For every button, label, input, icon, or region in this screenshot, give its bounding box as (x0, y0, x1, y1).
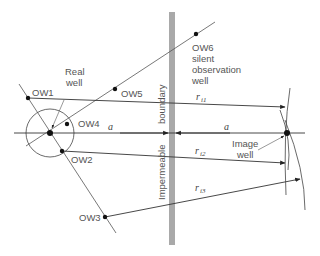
distance-a-right-label: a (224, 121, 229, 132)
image-well-label-line1: Image (232, 138, 258, 149)
ri1-subscript: i1 (201, 96, 206, 104)
image-well-point (284, 130, 290, 136)
image-well-label-line2: well (236, 149, 253, 160)
impermeable-boundary (169, 12, 175, 245)
ow6-label-line4: well (191, 75, 208, 86)
real-well-pointer (52, 100, 64, 128)
ow5-point (113, 87, 117, 91)
ri2-label: r (195, 145, 199, 156)
ow6-label-line1: OW6 (192, 42, 214, 53)
ow6-label-line3: observation (192, 64, 241, 75)
image-well-arc-inner (285, 88, 290, 195)
ow1-point (26, 96, 30, 100)
boundary-label-top: boundary (156, 84, 167, 124)
ri3-line (105, 179, 300, 217)
image-well-diagram: Real well OW1 OW5 OW4 OW2 OW3 OW6 silent… (0, 0, 320, 256)
ow2-label: OW2 (71, 154, 93, 165)
ow6-point (194, 32, 198, 36)
ri3-subscript: i3 (200, 187, 206, 195)
real-well-label-line1: Real (65, 66, 85, 77)
image-well-pointer (258, 136, 284, 150)
image-well-arc-middle (280, 110, 289, 170)
distance-a-left-label: a (108, 121, 113, 132)
ow3-label: OW3 (79, 212, 101, 223)
ri1-label: r (196, 91, 200, 102)
ow3-point (103, 215, 107, 219)
ri3-label: r (195, 182, 199, 193)
ow5-label: OW5 (121, 88, 143, 99)
ow6-label-line2: silent (192, 53, 215, 64)
ow2-point (60, 149, 64, 153)
ow4-label: OW4 (78, 118, 100, 129)
ow4-point (65, 122, 69, 126)
radial-line-ow4-ow6 (26, 22, 215, 146)
radial-line-ow1-ow3 (19, 84, 116, 233)
boundary-label-bottom: Impermeable (156, 145, 167, 200)
ow1-label: OW1 (32, 87, 54, 98)
ri2-subscript: i2 (200, 150, 206, 158)
real-well-point (47, 130, 53, 136)
real-well-label-line2: well (65, 77, 82, 88)
